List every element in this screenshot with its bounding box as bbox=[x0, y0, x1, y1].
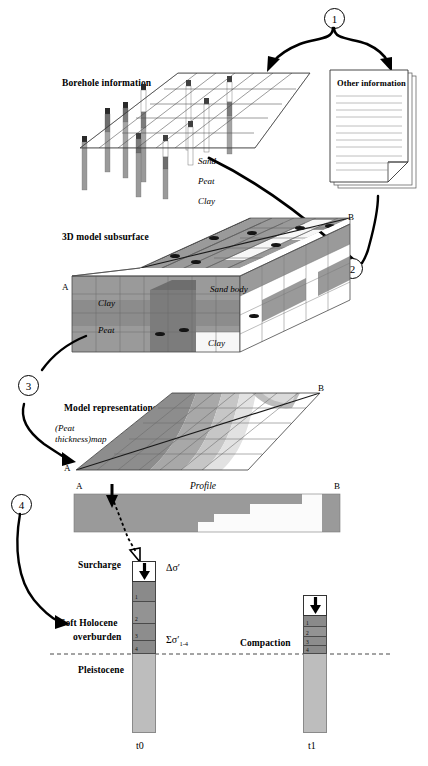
t0-segment-1: 1 bbox=[132, 582, 156, 602]
t1-segment-4: 4 bbox=[303, 646, 327, 654]
t0-segment-4-number: 4 bbox=[135, 647, 138, 653]
t1-surcharge-arrow-icon bbox=[310, 597, 321, 615]
t0-segment-3-number: 3 bbox=[135, 634, 138, 640]
t0-time-label: t0 bbox=[136, 740, 144, 751]
t1-segment-1-number: 1 bbox=[306, 621, 309, 627]
pleistocene-boundary-line bbox=[0, 0, 428, 766]
t1-segment-3: 3 bbox=[303, 637, 327, 646]
t0-surcharge-arrow-icon bbox=[139, 563, 150, 581]
t1-segment-3-number: 3 bbox=[306, 640, 309, 646]
t0-segment-2-number: 2 bbox=[135, 617, 138, 623]
t0-segment-4: 4 bbox=[132, 641, 156, 654]
t1-segment-1: 1 bbox=[303, 616, 327, 627]
t1-segment-2-number: 2 bbox=[306, 631, 309, 637]
t0-segment-2: 2 bbox=[132, 602, 156, 624]
t1-segment-2: 2 bbox=[303, 627, 327, 637]
t0-pleistocene-block bbox=[132, 654, 156, 733]
t1-time-label: t1 bbox=[308, 740, 316, 751]
column-t1: 1 2 3 4 bbox=[303, 595, 327, 733]
t0-segment-1-number: 1 bbox=[135, 595, 138, 601]
column-t0: 1 2 3 4 bbox=[132, 561, 156, 733]
t1-pleistocene-block bbox=[303, 654, 327, 733]
t0-segment-3: 3 bbox=[132, 624, 156, 641]
t1-segment-4-number: 4 bbox=[306, 648, 309, 654]
